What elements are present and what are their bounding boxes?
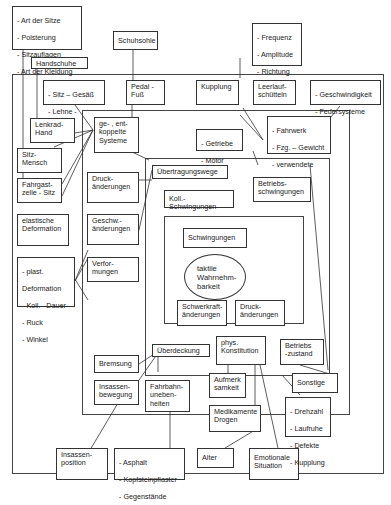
text-line: - Richtung <box>257 68 297 76</box>
text-line: - Art der Kleidung <box>17 68 77 76</box>
insassenbewegung-box: Insassen- bewegung <box>94 380 139 405</box>
plast-deformation-box: - plast. Deformation - Koll. –Dauer - Ru… <box>17 257 75 307</box>
kupplung-box: Kupplung <box>196 80 239 105</box>
frequency-attributes-box: - Frequenz - Amplitude - Richtung - Zeit… <box>252 23 302 66</box>
text-line: Deformation <box>22 285 70 293</box>
sitz-gesaess-box: - Sitz – Gesäß - Lehne - Rücken <box>43 80 105 105</box>
elastische-deformation-box: elastische Deformation <box>17 214 69 246</box>
koll-schwingungen-box: Koll.- Schwingungen <box>164 190 234 208</box>
taktile-wahrnehmbarkeit-ellipse: taktile Wahrnehm- barkeit <box>184 254 246 300</box>
text-line: - Amplitude <box>257 51 297 59</box>
text-line: - Gegenstände <box>119 493 180 501</box>
text-line: - Geschwindigkeit <box>315 91 376 99</box>
bremsung-box: Bremsung <box>94 355 139 373</box>
gekoppelte-systeme-box: ge- , ent- koppelte Systeme <box>94 117 139 153</box>
text-line: - plast. <box>22 268 70 276</box>
text-line: - Fzg. – Gewicht <box>272 144 326 152</box>
sitz-attributes-box: - Art der Sitze - Polsterung - Sitzaufla… <box>12 6 82 50</box>
ueberdeckung-box: Überdeckung <box>152 344 210 357</box>
alter-box: Alter <box>197 448 234 468</box>
text-line: - Ruck <box>22 319 70 327</box>
text-line: - Laufruhe <box>290 425 326 433</box>
text-line: - Asphalt <box>119 459 180 467</box>
text-line: - Drehzahl <box>290 408 326 416</box>
aufmerksamkeit-box: Aufmerk samkeit <box>209 373 246 398</box>
geschwindigkeit-box: - Geschwindigkeit - Federsysteme <box>310 80 381 105</box>
getriebe-motor-box: - Getriebe - Motor <box>196 129 243 151</box>
druckaenderungen-inner-box: Druck- änderungen <box>235 300 285 326</box>
text-line: - Koll. –Dauer <box>22 302 70 310</box>
drehzahl-box: - Drehzahl - Laufruhe - Defekte - Kupplu… <box>285 397 331 437</box>
text-line: - Art der Sitze <box>17 17 77 25</box>
phys-konstitution-box: phys. Konstitution <box>216 336 266 365</box>
lenkrad-hand-box: Lenkrad- Hand <box>30 118 75 143</box>
betriebsschwingungen-box: Betriebs- schwingungen <box>253 177 311 202</box>
insassenposition-box: Insassen- position <box>56 448 108 480</box>
schuhsohle-box: Schuhsohle <box>113 31 158 50</box>
betriebszustand-box: Betriebs -zustand <box>280 339 324 365</box>
text-line: - Defekte <box>290 442 326 450</box>
fahrgastzelle-box: Fahrgast- zelle - Sitz <box>17 178 62 203</box>
text-line: - Polsterung <box>17 34 77 42</box>
verformungen-box: Verfor- mungen <box>87 257 139 282</box>
text-line: - Fahrwerk <box>272 127 326 135</box>
uebertragungswege-box: Übertragungswege <box>152 165 228 179</box>
sitz-mensch-box: Sitz- Mensch <box>17 148 62 173</box>
text-line: - Winkel <box>22 336 70 344</box>
handschuhe-box: Handschuhe <box>31 57 88 69</box>
text-line: - Kopfsteinpflaster <box>119 476 180 484</box>
geschw-aenderungen-box: Geschw.- änderungen <box>87 214 139 245</box>
druckaenderungen-outer-box: Druck- änderungen <box>87 172 139 203</box>
fahrwerk-box: - Fahrwerk - Fzg. – Gewicht - verwendete… <box>267 116 331 154</box>
schwingungen-box: Schwingungen <box>183 228 247 248</box>
text-line: - Frequenz <box>257 34 297 42</box>
pedal-fuss-box: Pedal - Fuß <box>126 80 165 105</box>
leerlauf-box: Leerlauf- schütteln <box>253 80 296 105</box>
text-line: - Getriebe <box>201 140 238 148</box>
text-line: - Kupplung <box>290 459 326 467</box>
medikamente-box: Medikamente Drogen <box>209 405 261 432</box>
fahrbahnunebenheiten-box: Fahrbahn- uneben- heiten <box>145 380 190 412</box>
text-line: - verwendete <box>272 161 326 169</box>
sonstige-box: Sonstige <box>292 373 338 393</box>
text-line: - Sitz – Gesäß <box>48 91 100 99</box>
schwerkraft-aenderungen-box: Schwerkraft- änderungen <box>177 300 227 326</box>
untergrund-box: - Asphalt - Kopfsteinpflaster - Gegenstä… <box>114 448 185 480</box>
